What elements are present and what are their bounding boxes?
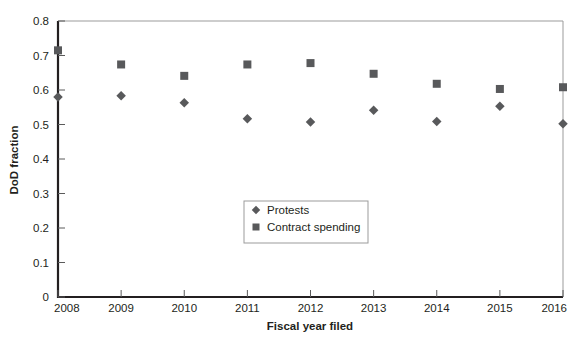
scatter-plot: 00.10.20.30.40.50.60.70.8 20082009201020…	[0, 0, 577, 342]
y-tick-label: 0	[43, 291, 49, 303]
legend-marker-square	[253, 224, 260, 231]
y-axis-tick-labels: 00.10.20.30.40.50.60.70.8	[33, 15, 50, 303]
data-point-contract-spending	[180, 72, 188, 80]
data-point-contract-spending	[370, 70, 378, 78]
x-tick-label: 2015	[487, 302, 513, 314]
y-tick-label: 0.2	[33, 222, 49, 234]
x-tick-label: 2016	[541, 302, 567, 314]
data-point-contract-spending	[496, 85, 504, 93]
data-series-markers	[53, 46, 568, 128]
data-point-protests	[432, 117, 442, 127]
y-tick-label: 0.8	[33, 15, 49, 27]
y-tick-label: 0.4	[33, 153, 50, 165]
x-tick-label: 2013	[361, 302, 387, 314]
x-tick-label: 2008	[54, 302, 80, 314]
y-axis-title: DoD fraction	[8, 126, 20, 195]
chart-container: 00.10.20.30.40.50.60.70.8 20082009201020…	[0, 0, 577, 342]
data-point-protests	[180, 98, 190, 108]
legend-label: Contract spending	[267, 221, 360, 233]
data-point-contract-spending	[243, 60, 251, 68]
x-axis-title: Fiscal year filed	[267, 320, 353, 332]
data-point-contract-spending	[559, 83, 567, 91]
y-tick-label: 0.3	[33, 188, 49, 200]
data-point-protests	[306, 117, 316, 127]
x-tick-label: 2009	[108, 302, 134, 314]
x-tick-label: 2014	[424, 302, 450, 314]
y-tick-label: 0.5	[33, 119, 49, 131]
y-tick-label: 0.7	[33, 50, 49, 62]
data-point-contract-spending	[433, 80, 441, 88]
data-point-protests	[116, 91, 126, 101]
x-tick-label: 2011	[235, 302, 260, 314]
data-point-protests	[243, 114, 253, 124]
legend-label: Protests	[267, 204, 309, 216]
data-point-contract-spending	[117, 60, 125, 68]
data-point-contract-spending	[307, 59, 315, 67]
data-point-protests	[558, 119, 568, 129]
data-point-protests	[369, 106, 379, 116]
y-tick-label: 0.6	[33, 84, 49, 96]
chart-legend: ProtestsContract spending	[244, 201, 368, 243]
x-axis-tick-labels: 200820092010201120122013201420152016	[54, 302, 567, 314]
data-point-protests	[495, 101, 505, 111]
data-point-contract-spending	[54, 46, 62, 54]
data-point-protests	[53, 92, 63, 102]
x-tick-label: 2012	[298, 302, 324, 314]
y-tick-label: 0.1	[33, 257, 49, 269]
x-tick-label: 2010	[171, 302, 197, 314]
